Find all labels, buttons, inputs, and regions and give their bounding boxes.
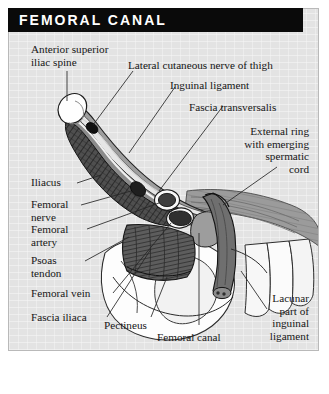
label-femoral-artery: Femoral artery xyxy=(31,223,68,248)
label-iliacus: Iliacus xyxy=(31,176,61,189)
label-femoral-canal: Femoral canal xyxy=(157,331,221,344)
leader-inguinal-ligament xyxy=(129,87,175,153)
figure-frame: Anterior superior iliac spine Lateral cu… xyxy=(8,8,319,351)
spermatic-cord-cut-end xyxy=(213,287,231,298)
page-title: FEMORAL CANAL xyxy=(8,12,167,28)
leader-lateral-cutaneous xyxy=(93,71,133,125)
femoral-artery-section xyxy=(155,190,180,210)
label-fascia-transversalis: Fascia transversalis xyxy=(189,101,276,114)
label-femoral-vein: Femoral vein xyxy=(31,287,90,300)
label-pectineus: Pectineus xyxy=(104,319,147,332)
label-anterior-superior-iliac-spine: Anterior superior iliac spine xyxy=(31,43,108,68)
label-fascia-iliaca: Fascia iliaca xyxy=(31,311,87,324)
psoas-tendon-block xyxy=(123,225,196,281)
femoral-canal-figure: Anterior superior iliac spine Lateral cu… xyxy=(0,0,329,394)
label-lacunar-part: Lacunar part of inguinal ligament xyxy=(237,292,309,342)
label-femoral-nerve: Femoral nerve xyxy=(31,198,68,223)
label-external-ring: External ring with emerging spermatic co… xyxy=(189,125,309,175)
label-psoas-tendon: Psoas tendon xyxy=(31,254,61,279)
label-inguinal-ligament: Inguinal ligament xyxy=(170,79,249,92)
label-lateral-cutaneous-nerve: Lateral cutaneous nerve of thigh xyxy=(128,59,273,72)
figure-title-bar: FEMORAL CANAL xyxy=(8,8,303,32)
